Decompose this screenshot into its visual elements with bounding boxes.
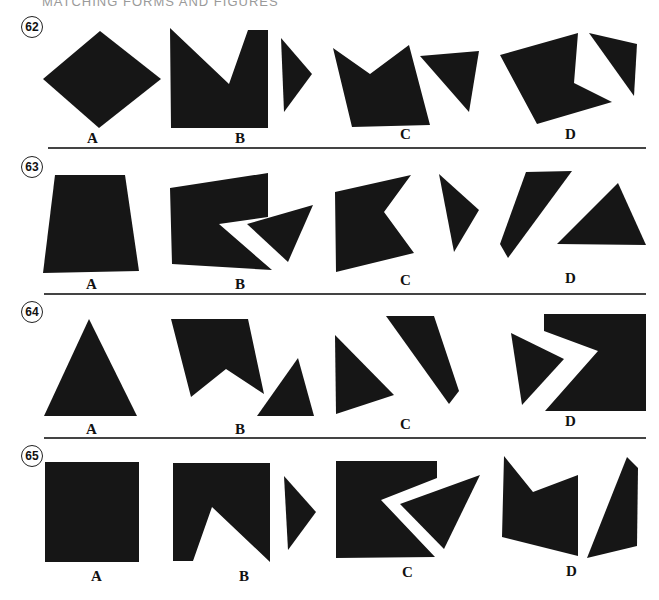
shape-62-b-piece-1 <box>170 28 268 128</box>
option-label-64-a: A <box>86 421 97 438</box>
shape-62-c-piece-2 <box>420 51 479 112</box>
option-label-63-a: A <box>86 276 97 293</box>
shape-62-c-piece-1 <box>333 45 430 127</box>
option-label-64-d: D <box>565 413 576 430</box>
shape-65-b-piece-2 <box>284 476 316 550</box>
option-label-62-c: C <box>400 126 411 143</box>
option-label-62-b: B <box>235 130 245 147</box>
option-label-63-d: D <box>565 270 576 287</box>
option-label-63-b: B <box>235 276 245 293</box>
option-label-64-c: C <box>400 416 411 433</box>
puzzle-shapes <box>0 0 659 600</box>
option-label-63-c: C <box>400 272 411 289</box>
shape-65-d-piece-1 <box>502 456 578 556</box>
option-label-64-b: B <box>235 421 245 438</box>
option-label-65-d: D <box>566 563 577 580</box>
shape-64-b-piece-2 <box>257 358 314 416</box>
shape-64-a-triangle <box>44 319 137 416</box>
shape-64-d-piece-1 <box>511 333 564 405</box>
shape-65-b-piece-1 <box>173 463 270 562</box>
shape-63-a-trapezoid <box>43 175 139 273</box>
shape-63-d-piece-1 <box>500 171 572 258</box>
shape-64-c-piece-2 <box>386 316 459 404</box>
shape-62-a-diamond <box>43 31 161 128</box>
option-label-62-a: A <box>87 130 98 147</box>
shape-63-d-piece-2 <box>557 183 646 245</box>
shape-63-c-piece-1 <box>335 175 414 272</box>
shape-65-a-square <box>45 462 139 562</box>
shape-62-d-piece-2 <box>589 33 637 96</box>
shape-65-d-piece-2 <box>587 457 638 558</box>
shape-62-b-piece-2 <box>281 38 312 112</box>
option-label-65-c: C <box>402 564 413 581</box>
option-label-65-a: A <box>91 568 102 585</box>
shape-63-c-piece-2 <box>439 174 479 252</box>
option-label-62-d: D <box>565 126 576 143</box>
shape-64-c-piece-1 <box>335 335 394 414</box>
shape-64-b-piece-1 <box>171 319 264 397</box>
shape-62-d-piece-1 <box>500 33 612 124</box>
option-label-65-b: B <box>239 568 249 585</box>
